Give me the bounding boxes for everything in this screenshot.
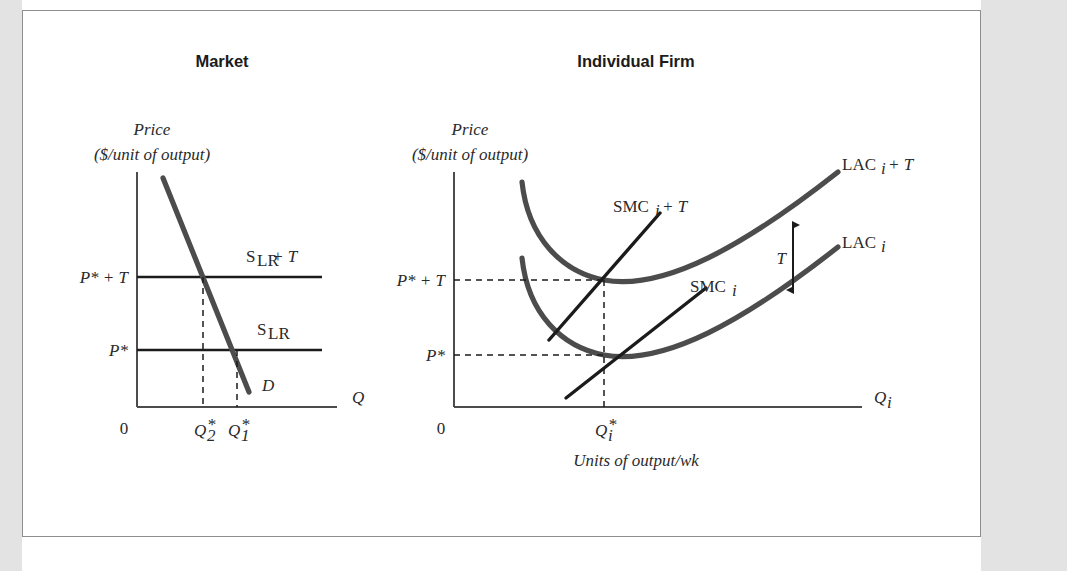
firm-smc-taxed-line <box>549 213 660 340</box>
firm-smc-label-letters: SMC <box>690 277 726 296</box>
firm-smc-label-subscript: i <box>732 281 737 300</box>
firm-smc-taxed-label: SMC i + T <box>613 197 689 220</box>
market-y-axis-caption-line2: ($/unit of output) <box>94 145 211 164</box>
firm-price-low-tick-label: P* <box>425 346 445 365</box>
firm-lac-taxed-curve <box>522 172 838 282</box>
market-q2-tick-subscript: 2 <box>207 426 216 445</box>
market-panel: Market Price ($/unit of output) Q 0 P* +… <box>79 52 365 445</box>
market-origin-label: 0 <box>120 419 129 438</box>
market-demand-line <box>163 178 249 392</box>
market-supply-taxed-label: S LR + T <box>246 247 299 270</box>
firm-quantity-tick-label: Q * i <box>595 415 617 445</box>
firm-x-axis-caption: Units of output/wk <box>573 451 699 470</box>
firm-y-axis-caption-line1: Price <box>451 120 489 139</box>
firm-smc-taxed-label-suffix: + T <box>662 197 689 216</box>
market-supply-taxed-label-suffix: + T <box>272 247 299 266</box>
firm-quantity-tick-letter: Q <box>595 421 607 440</box>
market-q1-tick-subscript: 1 <box>241 426 250 445</box>
firm-tax-gap-label: T <box>777 249 788 268</box>
market-supply-taxed-label-letter: S <box>246 247 255 266</box>
market-q1-tick-label: Q * 1 <box>228 415 250 445</box>
firm-lac-label: LAC i <box>842 233 886 256</box>
market-demand-label: D <box>261 376 275 395</box>
firm-price-high-tick-label: P* + T <box>396 271 447 290</box>
diagram-canvas: Market Price ($/unit of output) Q 0 P* +… <box>0 0 1067 571</box>
market-q2-tick-letter: Q <box>194 421 206 440</box>
firm-lac-taxed-label: LAC i + T <box>842 155 915 178</box>
market-q2-tick-label: Q * 2 <box>194 415 216 445</box>
firm-smc-taxed-label-subscript: i <box>655 201 660 220</box>
firm-lac-taxed-label-suffix: + T <box>888 155 915 174</box>
market-price-low-tick-label: P* <box>108 341 128 360</box>
firm-panel: Individual Firm Price ($/unit of output)… <box>396 52 915 470</box>
firm-lac-label-subscript: i <box>881 237 886 256</box>
firm-y-axis-caption-line2: ($/unit of output) <box>412 145 529 164</box>
figure-root: Market Price ($/unit of output) Q 0 P* +… <box>0 0 1067 571</box>
firm-origin-label: 0 <box>437 419 446 438</box>
market-supply-label-letter: S <box>257 320 266 339</box>
firm-x-axis-label-subscript: i <box>887 393 892 412</box>
market-q1-tick-letter: Q <box>228 421 240 440</box>
market-price-high-tick-label: P* + T <box>79 268 130 287</box>
market-supply-label-subscript: LR <box>268 324 290 343</box>
market-supply-label: S LR <box>257 320 290 343</box>
firm-lac-taxed-label-letters: LAC <box>842 155 876 174</box>
firm-x-axis-label-letter: Q <box>874 388 886 407</box>
firm-x-axis-label: Q i <box>874 388 892 412</box>
firm-lac-taxed-label-subscript: i <box>881 159 886 178</box>
firm-lac-label-letters: LAC <box>842 233 876 252</box>
market-panel-title: Market <box>195 52 249 70</box>
market-y-axis-caption-line1: Price <box>133 120 171 139</box>
firm-smc-taxed-label-letters: SMC <box>613 197 649 216</box>
firm-panel-title: Individual Firm <box>577 52 694 70</box>
firm-quantity-tick-subscript: i <box>608 426 613 445</box>
market-x-axis-label: Q <box>352 388 364 407</box>
